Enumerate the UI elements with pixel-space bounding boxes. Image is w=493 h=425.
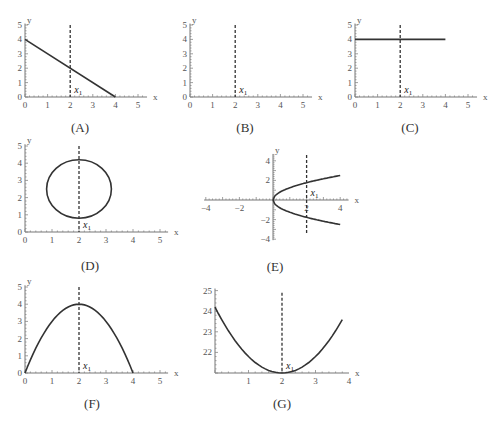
x1-label: x1 bbox=[310, 187, 319, 200]
y-tick-label: 2 bbox=[266, 175, 271, 185]
y-tick-label: 5 bbox=[348, 20, 353, 30]
x1-label: x1 bbox=[82, 360, 91, 373]
y-tick-label: 1 bbox=[18, 210, 23, 220]
x-tick-label: −4 bbox=[201, 203, 211, 213]
y-tick-label: 22 bbox=[203, 347, 212, 357]
x-tick-label: 1 bbox=[50, 376, 55, 386]
y-tick-label: 2 bbox=[18, 63, 23, 73]
axes: 012345012345xy bbox=[18, 15, 159, 110]
y-tick-label: 2 bbox=[348, 63, 353, 73]
x-tick-label: 4 bbox=[131, 235, 136, 245]
x-tick-label: 3 bbox=[421, 100, 426, 110]
x-tick-label: 0 bbox=[23, 376, 28, 386]
panel-b: 012345012345xyx1(B) bbox=[183, 15, 324, 135]
x-tick-label: −2 bbox=[235, 203, 245, 213]
figure-canvas: 012345012345xyx1(A)012345012345xyx1(B)01… bbox=[0, 0, 493, 425]
axes: 012345012345xy bbox=[183, 15, 324, 110]
y-axis-label: y bbox=[192, 15, 197, 25]
x1-label: x1 bbox=[238, 84, 247, 97]
panel-a: 012345012345xyx1(A) bbox=[18, 15, 159, 135]
x-tick-label: 0 bbox=[23, 100, 28, 110]
panel-label: (B) bbox=[236, 120, 253, 135]
x1-label: x1 bbox=[403, 84, 412, 97]
x-axis-label: x bbox=[355, 195, 360, 205]
x-tick-label: 0 bbox=[188, 100, 193, 110]
y-tick-label: 5 bbox=[18, 20, 23, 30]
x-tick-label: 3 bbox=[91, 100, 96, 110]
x-tick-label: 0 bbox=[23, 235, 28, 245]
x-tick-label: 4 bbox=[443, 100, 448, 110]
panel-c: 012345012345xyx1(C) bbox=[348, 15, 489, 135]
x-axis-label: x bbox=[318, 92, 323, 102]
y-tick-label: 0 bbox=[18, 368, 23, 378]
x1-label: x1 bbox=[82, 219, 91, 232]
x-tick-label: 1 bbox=[50, 235, 55, 245]
x-tick-label: 3 bbox=[313, 376, 318, 386]
data-line bbox=[25, 39, 115, 97]
y-tick-label: 4 bbox=[183, 34, 188, 44]
y-tick-label: 3 bbox=[18, 175, 23, 185]
y-tick-label: 1 bbox=[183, 78, 188, 88]
y-axis-label: y bbox=[275, 145, 280, 155]
x-tick-label: 2 bbox=[398, 100, 403, 110]
panel-label: (C) bbox=[401, 120, 418, 135]
x-axis-label: x bbox=[153, 92, 158, 102]
x-tick-label: 1 bbox=[210, 100, 215, 110]
x-tick-label: 4 bbox=[113, 100, 118, 110]
y-tick-label: 1 bbox=[348, 78, 353, 88]
x-tick-label: 1 bbox=[375, 100, 380, 110]
y-tick-label: 2 bbox=[18, 334, 23, 344]
y-tick-label: −2 bbox=[260, 215, 270, 225]
x-tick-label: 3 bbox=[104, 235, 109, 245]
axes: 012345012345xy bbox=[18, 276, 180, 386]
y-tick-label: 3 bbox=[183, 49, 188, 59]
y-tick-label: −4 bbox=[260, 234, 270, 244]
y-axis-label: y bbox=[27, 135, 32, 145]
y-tick-label: 1 bbox=[18, 351, 23, 361]
x-axis-label: x bbox=[174, 368, 179, 378]
panel-label: (D) bbox=[81, 258, 99, 273]
y-tick-label: 0 bbox=[348, 92, 353, 102]
plot-curves bbox=[215, 307, 342, 373]
x-tick-label: 2 bbox=[280, 376, 285, 386]
y-tick-label: 5 bbox=[18, 282, 23, 292]
y-tick-label: 0 bbox=[183, 92, 188, 102]
panel-label: (F) bbox=[84, 396, 100, 411]
panel-label: (G) bbox=[273, 396, 291, 411]
plot-curves bbox=[25, 39, 115, 97]
x-tick-label: 4 bbox=[347, 376, 352, 386]
panel-f: 012345012345xyx1(F) bbox=[18, 276, 180, 411]
panel-label: (E) bbox=[267, 259, 284, 274]
panel-e: −4−224−4−224xyx1(E) bbox=[201, 145, 360, 274]
x-tick-label: 1 bbox=[45, 100, 50, 110]
panel-label: (A) bbox=[71, 120, 89, 135]
x-axis-label: x bbox=[483, 92, 488, 102]
axes: −4−224−4−224xy bbox=[201, 145, 360, 244]
y-tick-label: 24 bbox=[203, 306, 213, 316]
x-tick-label: 5 bbox=[158, 235, 163, 245]
x-tick-label: 2 bbox=[68, 100, 73, 110]
x-tick-label: 3 bbox=[104, 376, 109, 386]
panel-d: 012345012345xyx1(D) bbox=[18, 135, 180, 273]
y-tick-label: 4 bbox=[348, 34, 353, 44]
x-tick-label: 0 bbox=[353, 100, 358, 110]
x1-label: x1 bbox=[73, 84, 82, 97]
x-axis-label: x bbox=[174, 227, 179, 237]
y-tick-label: 4 bbox=[18, 158, 23, 168]
y-tick-label: 5 bbox=[18, 141, 23, 151]
axes: 012345012345xy bbox=[18, 135, 180, 245]
y-tick-label: 0 bbox=[18, 227, 23, 237]
y-tick-label: 2 bbox=[18, 193, 23, 203]
y-tick-label: 4 bbox=[266, 156, 271, 166]
y-tick-label: 1 bbox=[18, 78, 23, 88]
y-axis-label: y bbox=[27, 15, 32, 25]
x-tick-label: 5 bbox=[301, 100, 306, 110]
x-axis-label: x bbox=[355, 368, 360, 378]
x-tick-label: 4 bbox=[131, 376, 136, 386]
x-tick-label: 4 bbox=[278, 100, 283, 110]
y-axis-label: y bbox=[27, 276, 32, 286]
x1-label: x1 bbox=[285, 360, 294, 373]
x-tick-label: 5 bbox=[136, 100, 141, 110]
y-tick-label: 23 bbox=[203, 327, 213, 337]
x-tick-label: 2 bbox=[77, 376, 82, 386]
